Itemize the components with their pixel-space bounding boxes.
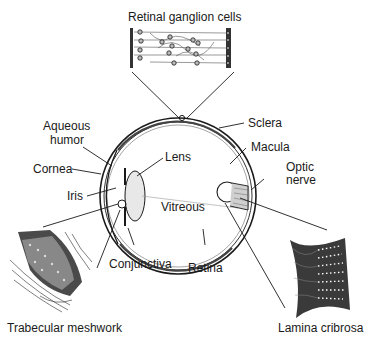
lamina-cribrosa-inset [290,238,350,318]
eye-anatomy-diagram: Retinal ganglion cells Sclera Aqueous hu… [0,0,374,345]
label-vitreous: Vitreous [161,201,205,214]
eye-globe [100,115,256,274]
label-aqueous-humor-line1: Aqueous [43,120,90,133]
label-sclera: Sclera [248,117,282,130]
label-retinal-ganglion-cells: Retinal ganglion cells [128,11,241,24]
label-macula: Macula [251,141,290,154]
label-trabecular-meshwork: Trabecular meshwork [7,322,122,335]
label-conjunctiva: Conjunctiva [109,258,172,271]
retinal-ganglion-cells-inset [130,28,234,119]
label-optic-nerve-line2: nerve [286,174,316,187]
label-aqueous-humor-line2: humor [50,134,84,147]
label-retina: Retina [188,262,223,275]
label-iris: Iris [67,190,83,203]
label-lamina-cribrosa: Lamina cribrosa [278,322,363,335]
trabecular-meshwork-inset [10,230,92,312]
label-lens: Lens [165,151,191,164]
label-cornea: Cornea [33,163,72,176]
